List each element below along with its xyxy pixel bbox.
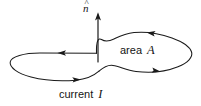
- normal-vector-hat-accent: ^: [83, 0, 90, 8]
- area-label-text: area: [120, 44, 142, 56]
- current-symbol: I: [98, 87, 102, 101]
- figure-canvas: ^ n areaA currentI: [0, 0, 201, 106]
- area-symbol: A: [147, 43, 155, 57]
- current-label-text: current: [59, 88, 93, 100]
- normal-vector-label: ^ n: [83, 3, 89, 14]
- loop-upper-left-segment: [10, 53, 99, 81]
- current-label: currentI: [59, 88, 102, 101]
- area-label: areaA: [120, 44, 155, 57]
- loop-pinch-upper-segment: [96, 39, 101, 53]
